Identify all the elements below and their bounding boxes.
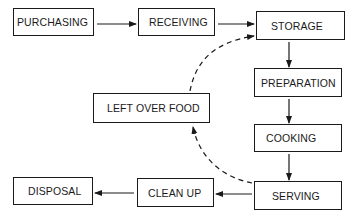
node-label: DISPOSAL bbox=[28, 185, 81, 197]
node-label: PREPARATION bbox=[261, 77, 336, 89]
node-label: PURCHASING bbox=[17, 16, 88, 28]
node-label: SERVING bbox=[272, 190, 320, 202]
node-left-over-food: LEFT OVER FOOD bbox=[93, 93, 210, 123]
node-clean-up: CLEAN UP bbox=[137, 178, 214, 207]
node-label: RECEIVING bbox=[149, 16, 208, 28]
node-preparation: PREPARATION bbox=[254, 68, 342, 97]
node-label: STORAGE bbox=[271, 20, 323, 32]
dashed-arrow-left-over-food-to-storage bbox=[190, 36, 254, 91]
node-purchasing: PURCHASING bbox=[13, 8, 94, 36]
dashed-arrow-serving-to-left-over-food bbox=[193, 127, 252, 183]
node-label: CLEAN UP bbox=[148, 187, 201, 199]
node-receiving: RECEIVING bbox=[138, 8, 215, 36]
node-storage: STORAGE bbox=[256, 11, 345, 40]
node-disposal: DISPOSAL bbox=[13, 177, 93, 205]
node-label: COOKING bbox=[266, 132, 316, 144]
node-serving: SERVING bbox=[254, 181, 342, 210]
node-cooking: COOKING bbox=[254, 124, 342, 152]
node-label: LEFT OVER FOOD bbox=[107, 102, 200, 114]
